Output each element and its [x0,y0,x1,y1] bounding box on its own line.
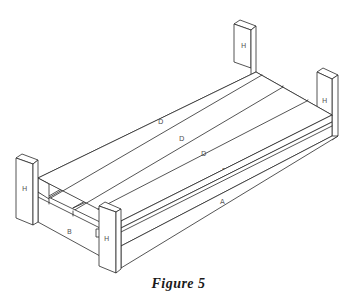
post-front-left: H [16,154,38,225]
post-front-right: H [99,202,121,273]
figure-caption: Figure 5 [0,276,357,292]
assembly-diagram: H D D D D A [0,0,357,294]
label-post-h-front-right: H [104,235,109,243]
label-post-h-back-left: H [241,42,246,50]
label-side-rail-a: A [220,198,225,206]
label-end-rail-b: B [67,228,72,236]
label-post-h-back-right: H [322,97,327,105]
label-post-h-front-left: H [22,185,27,193]
label-deck-board-2: D [179,135,184,143]
post-back-left: H [234,20,256,76]
label-deck-board-3: D [201,150,206,158]
label-deck-board-1: D [158,118,163,126]
